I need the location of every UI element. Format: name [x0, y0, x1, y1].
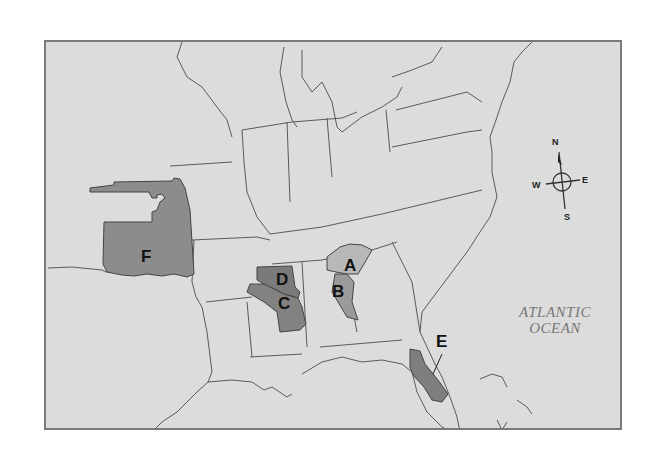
texas-coast	[152, 382, 208, 430]
ocean-label: ATLANTIC OCEAN	[490, 304, 620, 336]
bahamas-island	[517, 400, 532, 414]
compass-east-label: E	[582, 175, 588, 185]
state-border	[242, 122, 292, 130]
pa-south-border	[392, 130, 482, 147]
lake-erie	[342, 87, 402, 132]
ohio-east	[386, 110, 390, 152]
tn-ky-va-border	[270, 190, 482, 234]
lake-ontario	[392, 47, 442, 77]
ohio-west	[327, 118, 332, 177]
compass-west-label: W	[532, 180, 541, 190]
map-frame: F D C A B E ATLANTIC OCEAN N E W S	[44, 40, 622, 430]
iowa-south-border	[170, 162, 232, 166]
region-f-label: F	[141, 247, 151, 267]
ms-west	[247, 302, 252, 357]
region-a-label: A	[344, 256, 356, 276]
ga-sc-border	[392, 242, 420, 332]
region-d-label: D	[276, 270, 288, 290]
bahamas-island	[497, 420, 507, 430]
ms-al-border	[302, 262, 307, 347]
texas-east-border	[192, 240, 212, 382]
ocean-label-line2: OCEAN	[490, 320, 620, 336]
compass-south-label: S	[564, 212, 570, 222]
map-canvas	[46, 42, 622, 430]
lake-michigan-west	[280, 47, 297, 127]
region-e-leader-line	[433, 354, 442, 374]
ocean-label-line1: ATLANTIC	[490, 304, 620, 320]
atlantic-coast	[420, 42, 532, 332]
region-b-label: B	[332, 282, 344, 302]
region-c-label: C	[278, 294, 290, 314]
pa-north-border	[396, 92, 482, 110]
compass-north-label: N	[552, 137, 559, 147]
mo-ar-border	[192, 237, 270, 240]
al-fl-border	[320, 340, 402, 347]
wisconsin-west-border	[177, 42, 232, 137]
region-e-label: E	[436, 332, 447, 352]
region-e[interactable]	[410, 349, 448, 402]
state-border	[292, 112, 357, 122]
indiana-west	[287, 122, 290, 202]
bahamas-island	[480, 374, 507, 387]
compass-rose	[546, 152, 580, 209]
louisiana-coast	[208, 380, 292, 397]
ar-la-border	[206, 297, 252, 302]
la-ms-border	[250, 354, 302, 357]
illinois-west	[242, 130, 270, 234]
